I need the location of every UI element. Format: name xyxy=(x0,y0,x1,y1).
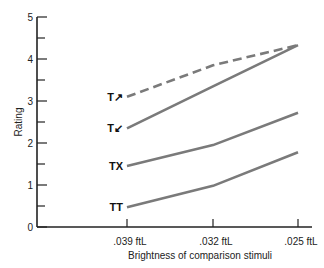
series-line xyxy=(127,45,298,97)
line-chart: 012345 .039 ftL.032 ftL.025 ftL T↗T↙TXTT… xyxy=(0,0,324,268)
y-tick-label: 4 xyxy=(27,54,33,65)
x-tick-label: .025 ftL xyxy=(284,236,318,247)
y-tick-label: 3 xyxy=(27,96,33,107)
y-tick-label: 0 xyxy=(27,222,33,233)
series-label: TT xyxy=(110,201,124,213)
y-tick-label: 1 xyxy=(27,180,33,191)
x-axis-title: Brightness of comparison stimuli xyxy=(128,250,272,261)
y-axis-title: Rating xyxy=(13,108,24,137)
series-line xyxy=(127,45,298,128)
y-axis: 012345 xyxy=(27,12,47,233)
y-tick-label: 5 xyxy=(27,12,33,23)
series-label: T↙ xyxy=(107,122,123,134)
series-label: T↗ xyxy=(107,91,123,103)
x-axis: .039 ftL.032 ftL.025 ftL xyxy=(37,219,318,247)
plot-area: T↗T↙TXTT xyxy=(107,45,298,213)
series-label: TX xyxy=(109,160,124,172)
series-line xyxy=(127,113,298,166)
y-tick-label: 2 xyxy=(27,138,33,149)
x-tick-label: .032 ftL xyxy=(199,236,233,247)
x-tick-label: .039 ftL xyxy=(113,236,147,247)
